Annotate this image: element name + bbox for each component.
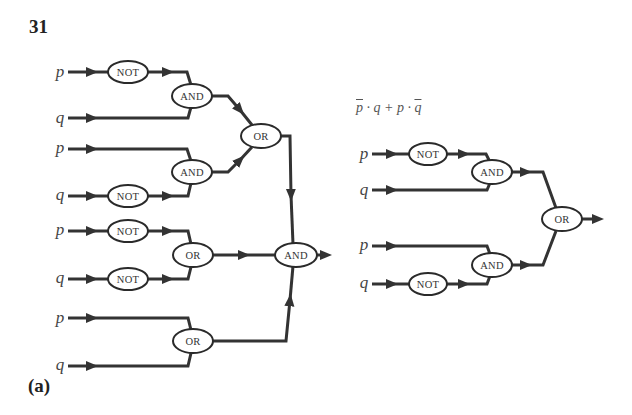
and-gate-r2: AND: [472, 253, 512, 277]
svg-text:NOT: NOT: [117, 191, 140, 202]
svg-text:NOT: NOT: [117, 67, 140, 78]
input-p-3: p: [55, 220, 65, 239]
input-p-r2: p: [359, 235, 369, 254]
not-gate-r2: NOT: [409, 273, 447, 295]
input-p-r1: p: [359, 144, 369, 163]
or-gate-mid: OR: [173, 243, 213, 267]
input-q-2: q: [56, 185, 65, 204]
and-gate-2: AND: [172, 160, 212, 184]
svg-text:OR: OR: [185, 250, 200, 261]
input-q-r2: q: [360, 273, 369, 292]
logic-circuit-diagram: p q p q p q p q: [0, 0, 632, 415]
not-gate-3: NOT: [108, 220, 148, 242]
and-gate-r1: AND: [472, 160, 512, 184]
input-p-1: p: [55, 62, 65, 81]
not-gate-2: NOT: [108, 185, 148, 207]
svg-text:NOT: NOT: [417, 279, 440, 290]
or-gate-top: OR: [241, 124, 281, 148]
right-circuit: p q p q NOT NOT AND AND OR: [359, 143, 598, 295]
svg-text:NOT: NOT: [417, 149, 440, 160]
input-p-4: p: [55, 308, 65, 327]
input-q-3: q: [56, 268, 65, 287]
input-q-1: q: [56, 108, 65, 127]
svg-text:AND: AND: [180, 91, 204, 102]
input-q-4: q: [56, 355, 65, 374]
or-gate-r-final: OR: [542, 207, 582, 231]
svg-text:AND: AND: [480, 260, 504, 271]
svg-text:OR: OR: [253, 131, 268, 142]
svg-text:AND: AND: [480, 167, 504, 178]
not-gate-1: NOT: [108, 61, 148, 83]
svg-text:OR: OR: [185, 336, 200, 347]
svg-text:AND: AND: [284, 250, 308, 261]
svg-text:AND: AND: [180, 167, 204, 178]
or-gate-bottom: OR: [173, 329, 213, 353]
and-gate-final: AND: [275, 243, 317, 267]
input-q-r1: q: [360, 180, 369, 199]
svg-text:NOT: NOT: [117, 274, 140, 285]
svg-text:OR: OR: [554, 214, 569, 225]
svg-text:NOT: NOT: [117, 226, 140, 237]
and-gate-1: AND: [172, 84, 212, 108]
not-gate-4: NOT: [108, 268, 148, 290]
input-p-2: p: [55, 138, 65, 157]
not-gate-r1: NOT: [409, 143, 447, 165]
left-circuit: p q p q p q p q: [55, 61, 326, 374]
